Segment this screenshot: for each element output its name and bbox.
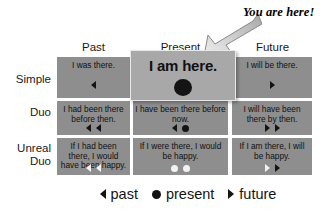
cell-text: If I am there, I will be happy. [232, 142, 312, 161]
row-header-unreal-duo-line2: Duo [30, 155, 51, 167]
legend: past present future [57, 186, 319, 202]
present-marker-icon [152, 190, 161, 199]
future-marker-icon [270, 81, 275, 89]
you-are-here-highlight-box: I am here. [130, 50, 236, 101]
past-marker-icon [96, 124, 101, 132]
row-header-duo: Duo [0, 106, 51, 119]
cell-duo-past: I had been there before then. [57, 101, 130, 135]
present-marker-hollow-icon [183, 165, 190, 172]
cell-unreal-duo-past: If I had been there, I would have been h… [57, 138, 130, 175]
past-marker-hollow-icon [86, 164, 91, 172]
cell-text: I have been there before now. [133, 105, 228, 124]
legend-item-past: past [100, 186, 138, 202]
cell-text: I will have been there by then. [232, 105, 312, 124]
cell-markers [57, 81, 130, 89]
past-marker-icon [100, 189, 106, 199]
future-marker-icon [275, 164, 280, 172]
cell-text: I will be there. [232, 61, 312, 71]
past-marker-hollow-icon [96, 164, 101, 172]
cell-markers [232, 124, 312, 132]
past-marker-icon [86, 124, 91, 132]
highlight-text: I am here. [131, 57, 235, 74]
cell-text: I had been there before then. [57, 105, 130, 124]
cell-markers [232, 81, 312, 89]
column-header-past: Past [57, 41, 130, 53]
cell-duo-present: I have been there before now. [133, 101, 228, 135]
cell-simple-future: I will be there. [232, 57, 312, 98]
legend-label: future [239, 186, 276, 202]
future-marker-icon [275, 124, 280, 132]
cell-duo-future: I will have been there by then. [232, 101, 312, 135]
cell-markers [57, 124, 130, 132]
cell-unreal-duo-present: If I were there, I would be happy. [133, 138, 228, 175]
column-header-future: Future [233, 41, 312, 53]
cell-text: If I were there, I would be happy. [133, 142, 228, 161]
future-marker-icon [228, 189, 234, 199]
cell-simple-past: I was there. [57, 57, 130, 98]
past-marker-icon [91, 81, 96, 89]
tense-chart-figure: You are here! Past Present Future Simple… [0, 0, 330, 212]
legend-label: present [166, 186, 214, 202]
future-marker-icon [265, 124, 270, 132]
cell-text: I was there. [57, 61, 130, 71]
cell-markers [57, 164, 130, 172]
cell-markers [232, 164, 312, 172]
past-marker-icon [172, 124, 177, 132]
legend-item-future: future [228, 186, 276, 202]
cell-markers [133, 165, 228, 172]
present-marker-icon [174, 79, 192, 96]
present-marker-hollow-icon [171, 165, 178, 172]
row-header-simple: Simple [0, 73, 51, 86]
cell-unreal-duo-future: If I am there, I will be happy. [232, 138, 312, 175]
row-header-unreal-duo-line1: Unreal [17, 142, 51, 154]
legend-item-present: present [152, 186, 214, 202]
cell-markers [133, 124, 228, 132]
row-header-unreal-duo: Unreal Duo [0, 142, 51, 168]
future-marker-hollow-icon [265, 164, 270, 172]
present-marker-icon [182, 125, 189, 132]
you-are-here-label: You are here! [243, 5, 314, 20]
legend-label: past [111, 186, 138, 202]
